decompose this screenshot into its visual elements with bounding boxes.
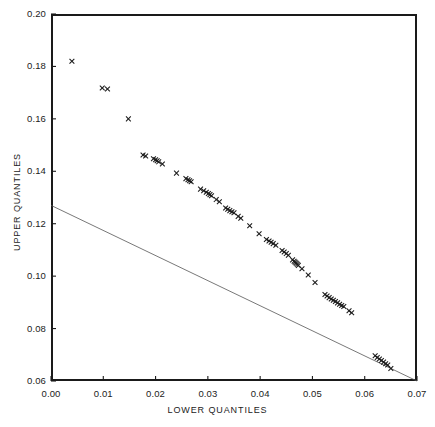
y-tick-label: 0.16 — [4, 113, 46, 124]
data-point — [105, 87, 110, 92]
qq-plot-figure: 0.060.080.100.120.140.160.180.20 0.000.0… — [0, 0, 435, 427]
data-point — [349, 310, 354, 315]
y-tick-label: 0.08 — [4, 323, 46, 334]
x-tick-label: 0.01 — [78, 388, 128, 399]
plot-canvas — [0, 0, 435, 427]
data-point — [286, 253, 291, 258]
data-point — [126, 116, 131, 121]
data-point — [300, 266, 305, 271]
axis-ticks — [51, 14, 417, 381]
x-tick-label: 0.03 — [183, 388, 233, 399]
data-point — [257, 231, 262, 236]
data-point — [174, 171, 179, 176]
data-points — [70, 59, 394, 371]
y-tick-label: 0.18 — [4, 60, 46, 71]
data-point — [388, 366, 393, 371]
data-point — [313, 280, 318, 285]
data-point — [247, 223, 252, 228]
x-tick-label: 0.00 — [26, 388, 76, 399]
x-tick-label: 0.07 — [392, 388, 435, 399]
data-point — [236, 214, 241, 219]
y-tick-label: 0.10 — [4, 270, 46, 281]
y-tick-label: 0.12 — [4, 218, 46, 229]
y-tick-label: 0.14 — [4, 165, 46, 176]
x-tick-label: 0.05 — [287, 388, 337, 399]
x-tick-label: 0.04 — [235, 388, 285, 399]
reference-line — [51, 205, 417, 381]
y-tick-label: 0.20 — [4, 8, 46, 19]
data-point — [238, 216, 243, 221]
data-point — [100, 86, 105, 91]
data-point — [306, 273, 311, 278]
x-tick-label: 0.02 — [131, 388, 181, 399]
data-point — [70, 59, 75, 64]
y-axis-title: UPPER QUANTILES — [12, 137, 22, 267]
y-tick-label: 0.06 — [4, 375, 46, 386]
x-tick-label: 0.06 — [340, 388, 390, 399]
x-axis-title: LOWER QUANTILES — [0, 405, 435, 415]
